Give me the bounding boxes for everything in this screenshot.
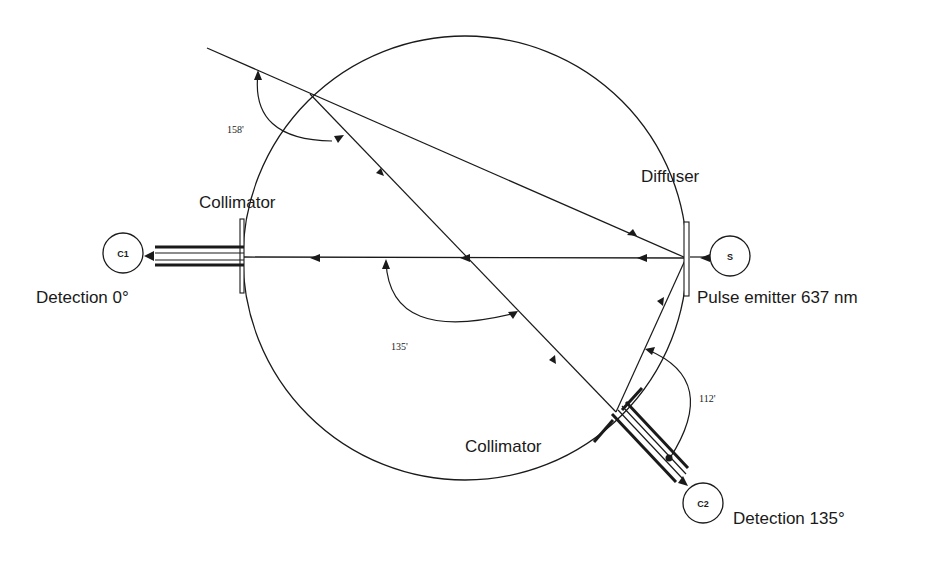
arc-112	[648, 350, 690, 458]
diffuser-plate	[684, 222, 689, 296]
label-detection-135: Detection 135°	[733, 509, 845, 528]
ray-arrows	[310, 168, 710, 364]
arrow-to-c1	[144, 251, 154, 261]
arc-135	[386, 262, 516, 322]
label-diffuser: Diffuser	[641, 167, 700, 186]
label-pulse-emitter: Pulse emitter 637 nm	[697, 288, 858, 307]
collimator-bottom	[594, 388, 688, 482]
arc-112-arrow-a	[645, 347, 655, 355]
ray-158	[207, 48, 686, 258]
angle-158: 158'	[227, 124, 244, 135]
detector-c1: C1	[103, 233, 143, 273]
s-label: S	[727, 252, 733, 262]
c2-label: C2	[697, 499, 709, 509]
collimator-tube-left	[155, 247, 244, 265]
source-s: S	[710, 236, 750, 276]
ray-112	[616, 258, 686, 412]
label-detection-0: Detection 0°	[36, 288, 129, 307]
label-collimator-bottom: Collimator	[465, 437, 542, 456]
angle-135: 135'	[391, 341, 408, 352]
ray-135	[310, 94, 616, 412]
arc-158	[257, 73, 332, 141]
optical-diagram: C1 S C2 Collimator Diffuser Detection 0°…	[0, 0, 938, 561]
arrow-to-c2	[678, 476, 688, 486]
arc-112-end	[666, 455, 673, 462]
angle-112: 112'	[699, 393, 716, 404]
c1-label: C1	[117, 249, 129, 259]
collimator-plate-left	[240, 219, 244, 293]
arc-158-arrow-b	[334, 135, 344, 143]
arc-135-arrow-a	[382, 259, 390, 269]
label-collimator-top: Collimator	[199, 193, 276, 212]
detector-c2: C2	[683, 483, 723, 523]
